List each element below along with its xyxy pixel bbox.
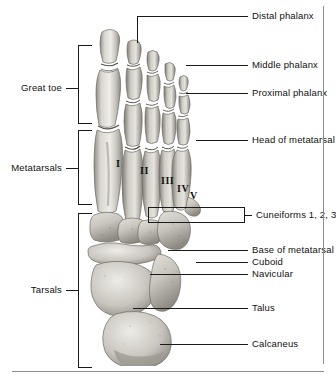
bottom-horizontal-rule [12,371,324,372]
tick-tarsals [66,290,78,291]
label-great-toe: Great toe [21,82,62,93]
label-cuboid: Cuboid [252,256,283,267]
label-calcaneus: Calcaneus [252,338,298,349]
metatarsal-numeral-i: I [116,158,120,169]
label-distal-phalanx: Distal phalanx [252,10,314,21]
label-talus: Talus [252,302,275,313]
tick-metatarsals [66,168,78,169]
cuneiforms-callout-box [148,207,245,223]
right-vertical-rule [323,6,324,364]
label-middle-phalanx: Middle phalanx [252,59,318,70]
leader-line-head-of-metatarsal [196,140,248,141]
foot-skeleton-figure: Distal phalanxMiddle phalanxProximal pha… [0,0,336,380]
label-tarsals: Tarsals [31,284,62,295]
leader-line-talus [133,308,248,309]
label-navicular: Navicular [252,268,293,279]
leader-line-cuboid [196,262,248,263]
leader-line-proximal-phalanx [186,93,248,94]
metatarsal-numeral-iv: IV [177,183,189,194]
tick-great-toe [66,88,78,89]
metatarsal-numeral-ii: II [140,165,149,176]
leader-line-distal-phalanx [137,16,248,17]
bracket-great-toe [78,45,92,124]
bracket-metatarsals [78,130,92,205]
distal-phalanx-leader-drop [137,16,138,43]
label-proximal-phalanx: Proximal phalanx [252,87,327,98]
label-metatarsals: Metatarsals [11,162,62,173]
bracket-tarsals [78,213,92,368]
leader-line-middle-phalanx [186,65,248,66]
metatarsal-numeral-v: V [190,190,198,201]
leader-line-cuneiforms [245,215,252,216]
label-base-of-metatarsal: Base of metatarsal [252,244,334,255]
leader-line-base-of-metatarsal [168,250,248,251]
leader-line-calcaneus [160,344,248,345]
label-cuneiforms: Cuneiforms 1, 2, 3 [256,209,336,220]
metatarsal-numeral-iii: III [161,175,174,186]
leader-line-navicular [150,274,248,275]
